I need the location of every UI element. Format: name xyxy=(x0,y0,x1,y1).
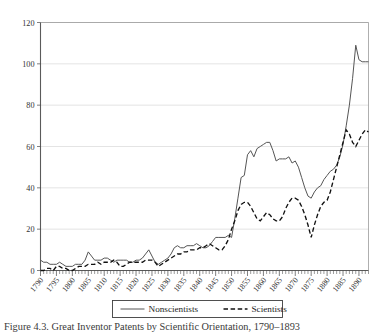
patents-line-chart: 020406080100120 179017951800180518101815… xyxy=(0,0,383,334)
x-tick-label: 1790 xyxy=(28,276,45,294)
chart-legend: NonscientistsScientists xyxy=(113,301,288,318)
x-tick-label: 1800 xyxy=(60,276,77,294)
x-tick-label: 1830 xyxy=(156,276,173,294)
x-axis-tick-labels: 1790179518001805181018151820182518301835… xyxy=(28,276,363,294)
x-tick-label: 1860 xyxy=(251,276,268,294)
x-tick-label: 1880 xyxy=(315,276,332,294)
x-tick-label: 1825 xyxy=(140,276,157,294)
figure-caption: Figure 4.3. Great Inventor Patents by Sc… xyxy=(4,321,380,333)
y-tick-label: 80 xyxy=(26,101,34,110)
x-axis-ticks xyxy=(41,271,369,277)
x-tick-label: 1865 xyxy=(267,276,284,294)
y-tick-label: 120 xyxy=(22,19,34,28)
y-tick-label: 40 xyxy=(26,184,34,193)
x-tick-label: 1795 xyxy=(44,276,61,294)
x-tick-label: 1845 xyxy=(203,276,220,294)
x-tick-label: 1810 xyxy=(92,276,109,294)
x-tick-label: 1870 xyxy=(283,276,300,294)
figure-container: 020406080100120 179017951800180518101815… xyxy=(0,0,383,334)
series-line-scientists xyxy=(41,130,369,271)
x-tick-label: 1850 xyxy=(219,276,236,294)
x-tick-label: 1890 xyxy=(347,276,364,294)
y-tick-label: 0 xyxy=(30,267,34,276)
y-tick-label: 100 xyxy=(22,60,34,69)
gridlines xyxy=(41,23,369,230)
legend-label-nonscientists: Nonscientists xyxy=(149,304,199,314)
legend-label-scientists: Scientists xyxy=(252,304,288,314)
y-tick-label: 60 xyxy=(26,143,34,152)
x-tick-label: 1820 xyxy=(124,276,141,294)
data-series xyxy=(41,45,369,270)
x-tick-label: 1855 xyxy=(235,276,252,294)
x-tick-label: 1835 xyxy=(172,276,189,294)
x-tick-label: 1805 xyxy=(76,276,93,294)
x-tick-label: 1815 xyxy=(108,276,125,294)
x-tick-label: 1840 xyxy=(188,276,205,294)
x-tick-label: 1885 xyxy=(331,276,348,294)
series-line-nonscientists xyxy=(41,45,369,266)
x-tick-label: 1875 xyxy=(299,276,316,294)
y-axis-tick-labels: 020406080100120 xyxy=(22,19,34,276)
y-tick-label: 20 xyxy=(26,225,34,234)
